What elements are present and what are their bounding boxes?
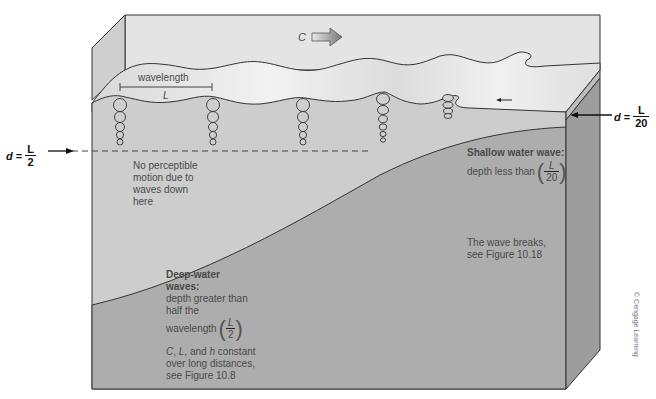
paren-open: (: [537, 161, 544, 183]
shallow-title: Shallow water wave:: [467, 147, 567, 159]
frac-den: 20: [544, 172, 559, 183]
paren-close: ): [559, 161, 566, 183]
frac-den: 2: [226, 329, 236, 340]
deep-title: Deep-water: [166, 269, 256, 281]
depth-eq: =: [624, 111, 630, 123]
frac-num: L: [633, 104, 649, 117]
celerity-label: C: [298, 31, 306, 43]
no-motion-note: No perceptible motion due to waves down …: [133, 160, 197, 208]
wavelength-label: wavelength: [138, 72, 189, 84]
depth-fraction: L 20: [633, 104, 649, 129]
depth-label-left: d = L 2: [6, 143, 36, 168]
deep-water-note: Deep-water waves: depth greater than hal…: [166, 269, 256, 382]
frac-den: 2: [25, 156, 36, 168]
note-line: see Figure 10.18: [467, 249, 546, 261]
note-line: waves down: [133, 184, 197, 196]
box-right-face: [566, 78, 600, 389]
depth-fraction: L 2: [25, 143, 36, 168]
shallow-line1: depth less than: [467, 166, 535, 178]
depth-eq: =: [16, 150, 22, 162]
orbital-column-5: [443, 95, 454, 119]
note-line: over long distances,: [166, 358, 256, 370]
paren-close: ): [235, 318, 242, 340]
deep-fraction: L 2: [226, 317, 236, 340]
depth-var: d: [614, 111, 621, 123]
note-line: No perceptible: [133, 160, 197, 172]
constants-line: C, L, and h constant: [166, 346, 256, 358]
depth-arrow-left: [48, 148, 74, 154]
shallow-fraction: L 20: [544, 160, 559, 183]
frac-num: L: [226, 317, 236, 329]
note-line: The wave breaks,: [467, 237, 546, 249]
note-line: wavelength: [166, 323, 217, 335]
frac-den: 20: [633, 117, 649, 129]
copyright-credit: © Cengage Learning: [633, 292, 640, 357]
wave-diagram: [0, 0, 656, 399]
frac-num: L: [25, 143, 36, 156]
note-line: see Figure 10.8: [166, 370, 256, 382]
note-line: here: [133, 196, 197, 208]
shallow-water-note: Shallow water wave: depth less than ( L …: [467, 147, 567, 183]
wavelength-symbol: L: [163, 90, 169, 102]
depth-label-right: d = L 20: [614, 104, 649, 129]
deep-title: waves:: [166, 281, 256, 293]
wave-breaks-note: The wave breaks, see Figure 10.18: [467, 237, 546, 261]
depth-var: d: [6, 150, 13, 162]
frac-num: L: [544, 160, 559, 172]
paren-open: (: [219, 318, 226, 340]
note-line: motion due to: [133, 172, 197, 184]
note-line: depth greater than: [166, 293, 256, 305]
